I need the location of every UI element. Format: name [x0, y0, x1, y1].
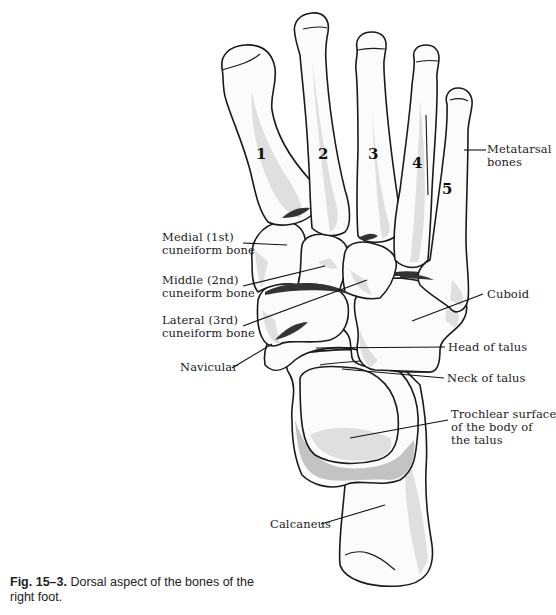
label-neck-of-talus: Neck of talus [447, 372, 526, 385]
label-trochlear-surface: Trochlear surface of the body of the tal… [451, 408, 556, 447]
label-metatarsal-line2: bones [487, 156, 551, 169]
label-cuboid: Cuboid [487, 288, 529, 301]
caption-figure-number: Fig. 15–3. [10, 575, 67, 589]
label-medial-cuneiform: Medial (1st) cuneiform bone [162, 231, 255, 257]
label-metatarsal-bones: Metatarsal bones [487, 143, 551, 169]
metatarsal-number-5: 5 [442, 180, 452, 198]
metatarsal-number-4: 4 [412, 154, 422, 172]
label-lateral-cuneiform-line2: cuneiform bone [162, 327, 255, 340]
label-calcaneus: Calcaneus [270, 518, 331, 531]
metatarsal-number-3: 3 [368, 145, 378, 163]
label-medial-cuneiform-line2: cuneiform bone [162, 244, 255, 257]
label-head-of-talus: Head of talus [448, 341, 527, 354]
label-navicular: Navicular [180, 361, 238, 374]
metatarsal-3 [356, 32, 400, 242]
label-lateral-cuneiform: Lateral (3rd) cuneiform bone [162, 314, 255, 340]
label-trochlear-line3: the talus [451, 434, 556, 447]
label-middle-cuneiform-line2: cuneiform bone [162, 287, 255, 300]
metatarsal-number-2: 2 [318, 145, 328, 163]
figure-caption: Fig. 15–3. Dorsal aspect of the bones of… [10, 575, 270, 605]
metatarsal-number-1: 1 [256, 145, 266, 163]
label-middle-cuneiform: Middle (2nd) cuneiform bone [162, 274, 255, 300]
